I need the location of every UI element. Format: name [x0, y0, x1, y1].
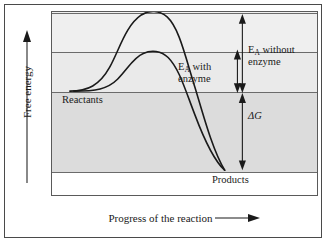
ea-without-enzyme-label: EA without enzyme — [248, 44, 310, 68]
y-axis: Free energy — [14, 28, 40, 188]
plot-area: Reactants Products EA with enzyme EA wit… — [51, 11, 318, 196]
delta-g-label: ΔG — [248, 110, 262, 122]
ea-without-enzyme-subscript: A — [254, 48, 259, 57]
arrow-ea-without-enzyme — [239, 14, 246, 93]
free-energy-diagram: Free energy — [0, 0, 328, 244]
right-arrow-icon — [215, 212, 261, 224]
arrow-ea-with-enzyme — [234, 50, 241, 94]
arrow-delta-g — [239, 93, 246, 170]
x-axis: Progress of the reaction — [51, 205, 318, 231]
y-axis-label: Free energy — [21, 27, 33, 157]
ea-with-enzyme-label: EA with enzyme — [178, 61, 234, 85]
x-axis-label: Progress of the reaction — [108, 212, 212, 224]
reactants-label: Reactants — [62, 94, 103, 106]
products-label: Products — [212, 174, 249, 186]
ea-with-enzyme-subscript: A — [184, 65, 189, 74]
